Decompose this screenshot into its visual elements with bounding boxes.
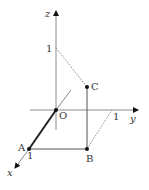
z-tick-1: 1	[46, 43, 52, 54]
point-B	[85, 147, 89, 151]
x-axis-label: x	[7, 167, 13, 178]
x-axis-negative	[56, 90, 71, 110]
x-tick-1: 1	[27, 150, 33, 161]
point-B-label: B	[86, 153, 93, 164]
dotted-z1-to-C	[56, 48, 87, 87]
segment-OA	[29, 110, 56, 149]
point-C-label: C	[91, 81, 99, 92]
z-axis-label: z	[44, 8, 51, 19]
point-C	[85, 85, 89, 89]
y-axis-label: y	[129, 113, 136, 124]
origin-label: O	[59, 110, 67, 121]
y-tick-1: 1	[113, 111, 119, 122]
coordinate-diagram: z 1 y 1 x 1 O A B C	[0, 0, 149, 190]
dotted-B-to-y1	[87, 110, 112, 149]
point-O	[54, 108, 58, 112]
point-A-label: A	[17, 142, 26, 153]
